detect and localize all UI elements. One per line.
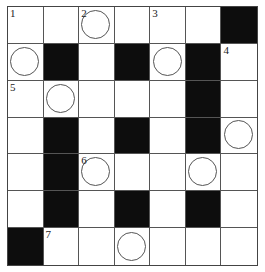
grid-cell[interactable] [221, 81, 257, 118]
grid-cell[interactable] [186, 154, 222, 191]
black-cell [115, 191, 151, 228]
circle-icon [188, 157, 217, 186]
clue-number: 6 [81, 154, 87, 166]
grid-cell[interactable] [150, 154, 186, 191]
grid-cell[interactable] [150, 118, 186, 155]
clue-number: 7 [46, 228, 52, 240]
circle-icon [153, 47, 182, 76]
grid-cell[interactable] [221, 191, 257, 228]
grid-cell[interactable] [150, 191, 186, 228]
black-cell [115, 44, 151, 81]
grid-cell[interactable] [8, 118, 44, 155]
grid-cell[interactable] [186, 7, 222, 44]
grid-cell[interactable] [115, 7, 151, 44]
grid-cell[interactable] [221, 228, 257, 265]
black-cell [44, 118, 80, 155]
clue-number: 3 [152, 7, 158, 19]
grid-cell[interactable] [79, 118, 115, 155]
grid-cell[interactable]: 3 [150, 7, 186, 44]
grid-cell[interactable] [221, 118, 257, 155]
grid-cell[interactable] [186, 228, 222, 265]
grid-cell[interactable]: 1 [8, 7, 44, 44]
grid-cell[interactable] [150, 228, 186, 265]
crossword-grid: 1234567 [7, 6, 258, 266]
grid-cell[interactable] [44, 7, 80, 44]
grid-cell[interactable] [8, 154, 44, 191]
black-cell [186, 81, 222, 118]
black-cell [186, 191, 222, 228]
grid-cell[interactable]: 5 [8, 81, 44, 118]
grid-cell[interactable] [44, 81, 80, 118]
grid-cell[interactable] [115, 154, 151, 191]
grid-cell[interactable] [79, 228, 115, 265]
grid-cell[interactable] [115, 81, 151, 118]
grid-cell[interactable] [221, 154, 257, 191]
clue-number: 4 [223, 44, 229, 56]
black-cell [186, 44, 222, 81]
black-cell [44, 44, 80, 81]
grid-cell[interactable] [79, 191, 115, 228]
black-cell [115, 118, 151, 155]
circle-icon [117, 232, 146, 261]
black-cell [186, 118, 222, 155]
grid-cell[interactable] [8, 44, 44, 81]
grid-cell[interactable]: 7 [44, 228, 80, 265]
grid-cell[interactable] [8, 191, 44, 228]
grid-cell[interactable] [79, 44, 115, 81]
grid-cell[interactable]: 4 [221, 44, 257, 81]
black-cell [44, 154, 80, 191]
black-cell [221, 7, 257, 44]
grid-cell[interactable] [150, 81, 186, 118]
circle-icon [46, 84, 75, 113]
grid-cell[interactable]: 2 [79, 7, 115, 44]
black-cell [8, 228, 44, 265]
grid-cell[interactable] [150, 44, 186, 81]
circle-icon [224, 120, 253, 149]
grid-cell[interactable] [79, 81, 115, 118]
grid-cell[interactable]: 6 [79, 154, 115, 191]
clue-number: 5 [10, 81, 16, 93]
grid-cell[interactable] [115, 228, 151, 265]
circle-icon [10, 47, 39, 76]
black-cell [44, 191, 80, 228]
clue-number: 2 [81, 7, 87, 19]
clue-number: 1 [10, 7, 16, 19]
